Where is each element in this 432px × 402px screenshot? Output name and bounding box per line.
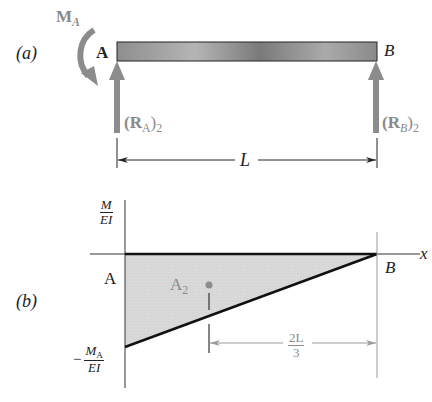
reaction-arrow-a-icon	[109, 61, 125, 133]
y-axis-den: EI	[99, 213, 113, 227]
centroid-distance-label: 2L 3	[288, 329, 304, 359]
centroid-distance-den: 3	[292, 346, 301, 360]
beam-moment-area-figure: (a) MA A B (RA)2 (RB)2 L (b) M EI x A B …	[0, 0, 432, 402]
min-value-num-sub: A	[96, 350, 103, 360]
y-axis-label: M EI	[99, 196, 113, 226]
span-label: L	[240, 151, 250, 169]
min-value-fraction: MA EI	[84, 344, 103, 375]
min-value-label: − MA EI	[73, 344, 104, 375]
y-axis-fraction: M EI	[99, 198, 113, 226]
centroid-distance-num: 2L	[288, 331, 304, 346]
support-a-label: A	[96, 44, 108, 61]
y-axis-num: M	[100, 198, 113, 213]
area-label-sub: 2	[182, 283, 188, 297]
centroid-distance-fraction: 2L 3	[288, 331, 304, 359]
reaction-a-label: (RA)2	[124, 114, 162, 134]
min-value-num: M	[85, 343, 96, 358]
moment-label: MA	[56, 8, 80, 28]
min-value-sign: −	[73, 352, 81, 367]
reaction-a-sub: A	[142, 121, 151, 135]
diagram-canvas	[0, 0, 432, 402]
point-a-label: A	[104, 270, 116, 287]
reaction-a-text: (R	[124, 113, 142, 132]
point-b-label: B	[385, 259, 395, 276]
support-b-label: B	[384, 42, 394, 59]
centroid-dot	[206, 282, 213, 289]
reaction-a-sub2: 2	[156, 121, 162, 135]
moment-label-sub: A	[72, 15, 80, 29]
area-label-main: A	[170, 275, 182, 294]
area-label: A2	[170, 276, 188, 296]
part-b-label: (b)	[16, 292, 37, 310]
min-value-den: EI	[87, 361, 101, 375]
beam	[117, 42, 377, 61]
reaction-b-label: (RB)2	[382, 114, 419, 134]
x-axis-label: x	[420, 245, 428, 262]
moment-label-main: M	[56, 7, 72, 26]
part-a-label: (a)	[16, 44, 37, 62]
reaction-b-sub2: 2	[413, 121, 419, 135]
reaction-b-text: (R	[382, 113, 400, 132]
